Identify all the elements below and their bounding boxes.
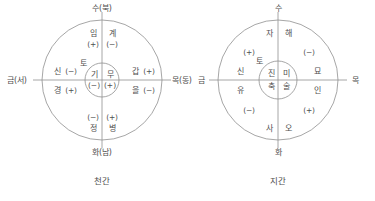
center-sign-left: (−)	[88, 82, 100, 90]
label-center-element: 토	[256, 57, 263, 66]
caption-cheongan: 천간	[94, 176, 110, 186]
branch-bottom-right: 오	[285, 124, 292, 133]
sign-bottom-right: (+)	[106, 113, 118, 122]
branch-top-right: 해	[285, 29, 292, 38]
label-top-element: 수(북)	[92, 4, 111, 13]
label-right-element: 목	[352, 76, 359, 85]
stem-right-upper: 갑	[132, 67, 139, 76]
stem-top-right: 계	[109, 29, 116, 38]
sign-top-right: (−)	[303, 48, 315, 57]
center-branch-bottom-right: 술	[283, 83, 290, 91]
branch-bottom-left: 사	[266, 124, 273, 133]
sign-top-left: (+)	[243, 48, 255, 57]
sign-bottom-left: (−)	[87, 113, 99, 122]
branch-left-upper: 신	[237, 67, 244, 76]
jigan-geometry	[187, 0, 375, 201]
label-left-element: 금	[198, 76, 205, 85]
sign-bottom-right: (+)	[303, 106, 315, 115]
center-branch-bottom-left: 축	[268, 83, 275, 91]
sign-right-lower: (−)	[143, 86, 155, 95]
stem-top-left: 임	[90, 29, 97, 38]
diagram-cheongan: 수(북) 금(서) 목(동) 화(남) 토 임 (+) 계 (−) 신 (−) …	[0, 0, 188, 201]
sign-left-lower: (+)	[65, 86, 77, 95]
figure-root: 수(북) 금(서) 목(동) 화(남) 토 임 (+) 계 (−) 신 (−) …	[0, 0, 375, 201]
label-left-element: 금(서)	[7, 76, 26, 85]
center-stem-left: 기	[91, 71, 98, 79]
sign-bottom-left: (−)	[243, 106, 255, 115]
center-sign-right: (+)	[104, 82, 116, 90]
stem-right-lower: 을	[132, 86, 139, 95]
center-stem-right: 무	[107, 71, 114, 79]
stem-bottom-right: 병	[109, 124, 116, 133]
diagram-jigan: 수 금 목 화 토 자 해 (+) (−) 신 유 묘 인 (−) (+) 사 …	[187, 0, 375, 201]
branch-left-lower: 유	[237, 86, 244, 95]
stem-left-upper: 신	[54, 67, 61, 76]
sign-right-upper: (+)	[143, 67, 155, 76]
stem-left-lower: 경	[54, 86, 61, 95]
center-branch-top-left: 진	[268, 70, 275, 78]
sign-top-left: (+)	[87, 40, 99, 49]
label-center-element: 토	[80, 59, 87, 68]
stem-bottom-left: 정	[90, 124, 97, 133]
label-bottom-element: 화	[275, 148, 282, 157]
label-bottom-element: 화(남)	[92, 148, 111, 157]
sign-top-right: (−)	[106, 40, 118, 49]
branch-right-lower: 인	[314, 86, 321, 95]
sign-left-upper: (−)	[65, 67, 77, 76]
caption-jigan: 지간	[270, 176, 286, 186]
center-branch-top-right: 미	[283, 70, 290, 78]
branch-right-upper: 묘	[314, 67, 321, 76]
label-top-element: 수	[275, 4, 282, 13]
branch-top-left: 자	[266, 29, 273, 38]
